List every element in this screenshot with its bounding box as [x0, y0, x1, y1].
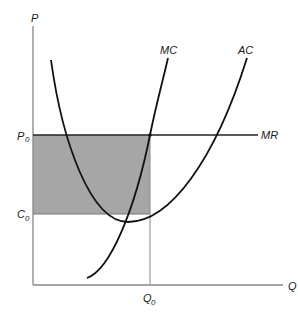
mc-label: MC [160, 44, 177, 56]
x-axis-label: Q [288, 280, 297, 292]
svg-text:0: 0 [25, 135, 30, 144]
y-axis-label: P [31, 12, 39, 24]
equilibrium-point [148, 133, 152, 137]
q0-label: Q 0 [143, 292, 156, 307]
svg-text:C: C [17, 208, 25, 220]
p0-label: P 0 [17, 130, 30, 144]
c0-label: C 0 [17, 208, 30, 223]
ac-label: AC [237, 44, 253, 56]
svg-text:P: P [17, 130, 25, 142]
svg-text:0: 0 [151, 298, 156, 307]
mr-label: MR [261, 129, 278, 141]
profit-diagram: P Q MC AC MR P 0 C 0 Q 0 [0, 0, 298, 320]
svg-text:0: 0 [25, 214, 30, 223]
